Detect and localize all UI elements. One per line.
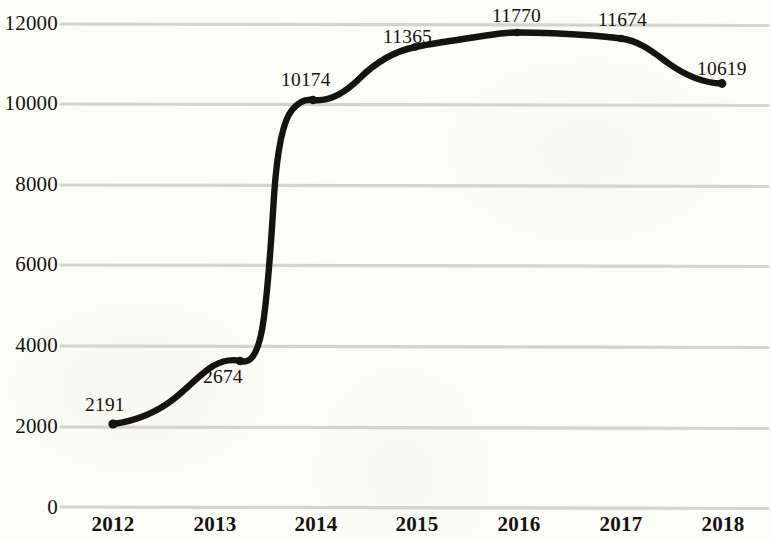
plot-area	[0, 0, 772, 539]
y-tick-0: 0	[0, 495, 58, 520]
x-tick-2014: 2014	[281, 512, 351, 537]
x-tick-2018: 2018	[688, 512, 758, 537]
data-label-2674: 2674	[203, 366, 243, 388]
data-point-markers	[108, 29, 726, 429]
gridline-0	[61, 507, 768, 509]
y-tick-6000: 6000	[0, 252, 58, 277]
gridline-4000	[61, 346, 768, 348]
x-tick-2015: 2015	[382, 512, 452, 537]
data-label-11770: 11770	[492, 5, 541, 27]
data-point-2014	[309, 96, 317, 104]
gridline-10000	[61, 104, 768, 106]
data-point-2013	[236, 357, 244, 365]
data-point-2016	[513, 29, 521, 37]
data-label-11365: 11365	[383, 26, 432, 48]
y-tick-4000: 4000	[0, 333, 58, 358]
gridlines	[61, 24, 768, 509]
data-label-10174: 10174	[281, 69, 331, 91]
gridline-6000	[61, 265, 768, 267]
data-point-2012	[108, 419, 117, 428]
gridline-2000	[61, 427, 768, 429]
x-tick-2012: 2012	[78, 512, 148, 537]
y-tick-10000: 10000	[0, 91, 58, 116]
data-label-11674: 11674	[598, 9, 647, 31]
data-point-2018	[718, 79, 727, 88]
x-tick-2017: 2017	[586, 512, 656, 537]
x-tick-2013: 2013	[180, 512, 250, 537]
line-chart: 12000 10000 8000 6000 4000 2000 0 2012 2…	[0, 0, 772, 539]
gridline-8000	[61, 185, 768, 187]
data-point-2017	[617, 35, 625, 43]
y-tick-12000: 12000	[0, 11, 58, 36]
x-tick-2016: 2016	[484, 512, 554, 537]
data-label-2191: 2191	[85, 394, 125, 416]
y-tick-2000: 2000	[0, 414, 58, 439]
data-label-10619: 10619	[697, 58, 747, 80]
y-tick-8000: 8000	[0, 172, 58, 197]
